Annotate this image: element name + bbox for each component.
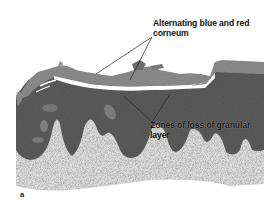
annotation-corneum: Alternating blue and red corneum <box>153 19 249 38</box>
histology-micrograph: Alternating blue and red corneum Zones o… <box>0 0 275 212</box>
panel-letter: a <box>20 190 24 199</box>
annotation-granular-line2: layer <box>150 131 250 141</box>
annotation-granular-loss: Zones of loss of granular layer <box>150 121 250 140</box>
annotation-corneum-line2: corneum <box>153 29 249 39</box>
